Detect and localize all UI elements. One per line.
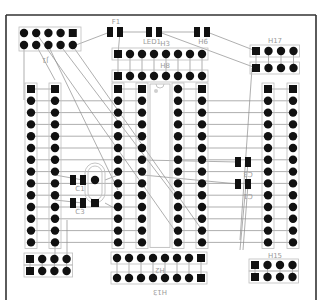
round-pad bbox=[38, 267, 46, 275]
square-pad bbox=[51, 85, 59, 93]
round-pad bbox=[263, 261, 271, 269]
round-pad bbox=[51, 108, 59, 116]
round-pad bbox=[264, 203, 272, 211]
round-pad bbox=[198, 226, 206, 234]
round-pad bbox=[276, 273, 284, 281]
component-label: H13 bbox=[153, 288, 167, 296]
round-pad bbox=[27, 120, 35, 128]
round-pad bbox=[50, 267, 58, 275]
round-pad bbox=[150, 72, 158, 80]
round-pad bbox=[198, 238, 206, 246]
round-pad bbox=[27, 203, 35, 211]
round-pad bbox=[186, 72, 194, 80]
square-pad bbox=[289, 85, 297, 93]
round-pad bbox=[198, 179, 206, 187]
square-pad bbox=[252, 47, 260, 55]
square-pad bbox=[264, 85, 272, 93]
round-pad bbox=[289, 191, 297, 199]
smd-pad bbox=[156, 27, 162, 37]
round-pad bbox=[264, 64, 272, 72]
round-pad bbox=[289, 179, 297, 187]
round-pad bbox=[56, 41, 64, 49]
round-pad bbox=[264, 167, 272, 175]
round-pad bbox=[27, 179, 35, 187]
component-label: LED1 bbox=[143, 38, 161, 46]
square-pad bbox=[69, 29, 77, 37]
round-pad bbox=[138, 108, 146, 116]
round-pad bbox=[114, 191, 122, 199]
smd-pad bbox=[204, 27, 210, 37]
round-pad bbox=[32, 29, 40, 37]
round-pad bbox=[264, 47, 272, 55]
component-label: H15 bbox=[268, 252, 282, 260]
round-pad bbox=[288, 261, 296, 269]
round-pad bbox=[289, 226, 297, 234]
smd-pad bbox=[80, 198, 86, 208]
round-pad bbox=[277, 64, 285, 72]
round-pad bbox=[114, 238, 122, 246]
smd-pad bbox=[70, 175, 76, 185]
round-pad bbox=[174, 50, 182, 58]
round-pad bbox=[114, 215, 122, 223]
round-pad bbox=[27, 238, 35, 246]
round-pad bbox=[27, 167, 35, 175]
round-pad bbox=[161, 274, 169, 282]
smd-pad bbox=[70, 198, 76, 208]
round-pad bbox=[27, 97, 35, 105]
round-pad bbox=[174, 120, 182, 128]
round-pad bbox=[27, 226, 35, 234]
round-pad bbox=[51, 156, 59, 164]
round-pad bbox=[51, 179, 59, 187]
round-pad bbox=[264, 226, 272, 234]
square-pad bbox=[138, 85, 146, 93]
round-pad bbox=[114, 156, 122, 164]
round-pad bbox=[198, 72, 206, 80]
round-pad bbox=[162, 50, 170, 58]
round-pad bbox=[263, 273, 271, 281]
round-pad bbox=[198, 50, 206, 58]
round-pad bbox=[91, 176, 99, 184]
square-pad bbox=[27, 85, 35, 93]
round-pad bbox=[44, 29, 52, 37]
round-pad bbox=[149, 274, 157, 282]
round-pad bbox=[138, 203, 146, 211]
round-pad bbox=[198, 156, 206, 164]
square-pad bbox=[26, 255, 34, 263]
component-label: F1 bbox=[112, 18, 120, 26]
round-pad bbox=[288, 273, 296, 281]
round-pad bbox=[51, 238, 59, 246]
round-pad bbox=[174, 203, 182, 211]
round-pad bbox=[51, 167, 59, 175]
round-pad bbox=[137, 254, 145, 262]
round-pad bbox=[174, 191, 182, 199]
round-pad bbox=[289, 120, 297, 128]
round-pad bbox=[32, 41, 40, 49]
round-pad bbox=[198, 132, 206, 140]
round-pad bbox=[51, 203, 59, 211]
round-pad bbox=[44, 41, 52, 49]
component-label: H17 bbox=[268, 37, 282, 45]
round-pad bbox=[289, 238, 297, 246]
round-pad bbox=[174, 167, 182, 175]
round-pad bbox=[138, 97, 146, 105]
round-pad bbox=[27, 215, 35, 223]
smd-pad bbox=[235, 179, 241, 189]
round-pad bbox=[174, 179, 182, 187]
round-pad bbox=[38, 255, 46, 263]
round-pad bbox=[174, 215, 182, 223]
round-pad bbox=[150, 50, 158, 58]
round-pad bbox=[27, 132, 35, 140]
component-label: H6 bbox=[198, 38, 208, 46]
round-pad bbox=[174, 238, 182, 246]
round-pad bbox=[198, 108, 206, 116]
round-pad bbox=[289, 47, 297, 55]
smd-pad bbox=[117, 27, 123, 37]
component-label: C3 bbox=[75, 208, 84, 216]
round-pad bbox=[162, 72, 170, 80]
round-pad bbox=[174, 97, 182, 105]
square-pad bbox=[114, 50, 122, 58]
round-pad bbox=[114, 144, 122, 152]
round-pad bbox=[114, 120, 122, 128]
square-pad bbox=[114, 72, 122, 80]
square-pad bbox=[91, 199, 99, 207]
